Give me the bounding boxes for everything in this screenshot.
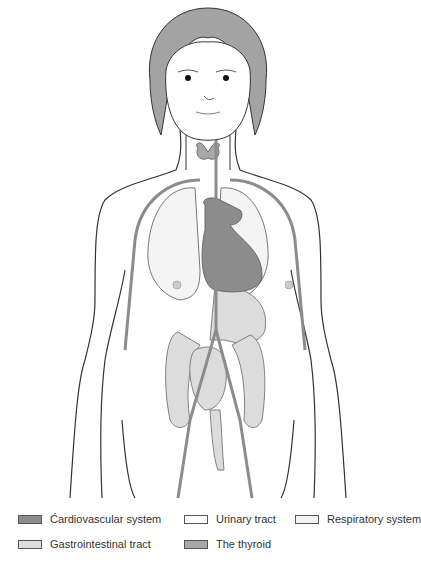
legend: Ćardiovascular system Urinary tract Resp… xyxy=(0,500,416,562)
legend-label: Respiratory system xyxy=(327,513,421,525)
left-eye xyxy=(185,75,191,81)
legend-item-respiratory: Respiratory system xyxy=(295,513,421,525)
legend-label: Urinary tract xyxy=(216,513,276,525)
legend-label: The thyroid xyxy=(216,538,271,550)
urinary-swatch xyxy=(184,515,208,524)
face xyxy=(166,42,251,141)
legend-label: Ćardiovascular system xyxy=(50,513,161,525)
gastrointestinal-swatch xyxy=(18,540,42,549)
legend-item-thyroid: The thyroid xyxy=(184,538,271,550)
anatomy-figure xyxy=(0,0,416,500)
respiratory-swatch xyxy=(295,515,319,524)
cardiovascular-swatch xyxy=(18,515,42,524)
legend-item-gastrointestinal: Gastrointestinal tract xyxy=(18,538,151,550)
thyroid-swatch xyxy=(184,540,208,549)
legend-label: Gastrointestinal tract xyxy=(50,538,151,550)
body-outline xyxy=(70,130,346,498)
right-eye xyxy=(223,75,229,81)
legend-item-urinary: Urinary tract xyxy=(184,513,276,525)
legend-item-cardiovascular: Ćardiovascular system xyxy=(18,513,161,525)
